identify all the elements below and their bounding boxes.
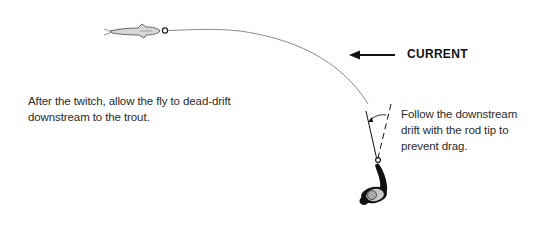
right-caption: Follow the downstream drift with the rod… xyxy=(401,106,517,154)
rod-dashed-line xyxy=(378,104,391,158)
angle-arrowhead xyxy=(368,117,373,122)
left-caption-line-2: downstream to the trout. xyxy=(28,109,231,125)
fly-marker xyxy=(162,28,167,33)
angler-figure xyxy=(360,158,389,206)
left-caption: After the twitch, allow the fly to dead-… xyxy=(28,93,231,125)
left-arrow-icon xyxy=(349,51,395,60)
right-caption-line-2: drift with the rod tip to xyxy=(401,122,517,138)
right-caption-line-1: Follow the downstream xyxy=(401,106,517,122)
current-label: CURRENT xyxy=(407,47,468,61)
right-caption-line-3: prevent drag. xyxy=(401,138,517,154)
trout-icon xyxy=(104,24,160,38)
left-caption-line-1: After the twitch, allow the fly to dead-… xyxy=(28,93,231,109)
